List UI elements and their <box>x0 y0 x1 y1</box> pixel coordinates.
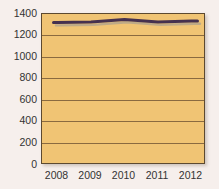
y-tick-label: 0 <box>0 159 37 170</box>
x-tick-label: 2012 <box>174 170 208 181</box>
gridline <box>42 100 204 101</box>
x-tick-label: 2008 <box>40 170 74 181</box>
x-tick-label: 2009 <box>73 170 107 181</box>
gridline <box>42 35 204 36</box>
y-tick-label: 1400 <box>0 8 37 19</box>
y-tick-label: 600 <box>0 94 37 105</box>
x-tick-label: 2011 <box>140 170 174 181</box>
plot-area <box>41 13 205 164</box>
chart-page: 0200400600800100012001400 20082009201020… <box>0 0 219 189</box>
gridline <box>42 57 204 58</box>
y-tick-label: 800 <box>0 72 37 83</box>
gridline <box>42 78 204 79</box>
x-tick-label: 2010 <box>107 170 141 181</box>
y-tick-label: 1200 <box>0 29 37 40</box>
y-tick-label: 200 <box>0 137 37 148</box>
gridline <box>42 121 204 122</box>
gridline <box>42 143 204 144</box>
y-tick-label: 400 <box>0 115 37 126</box>
y-tick-label: 1000 <box>0 51 37 62</box>
